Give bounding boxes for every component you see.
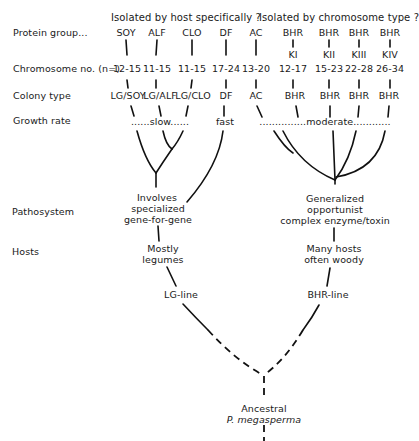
protein-group-bhr-1: BHR (283, 27, 304, 38)
lg-line-label: LG-line (164, 289, 198, 300)
protein-group-bhr-3: BHR (349, 27, 370, 38)
branch-alf (163, 131, 172, 149)
colony-bhr-4: BHR (379, 90, 400, 101)
branch-bhr-k4 (336, 131, 385, 177)
lg-pathosystem-line-1: Involves (137, 192, 177, 203)
colony-lg-alf: LG/ALF (143, 90, 177, 101)
row-label-protein-group: Protein group... (13, 27, 88, 38)
protein-group-clo: CLO (182, 27, 201, 38)
chromosome-bhr-k2: 15-23 (315, 63, 343, 74)
lg-hosts-to-line (167, 267, 176, 286)
colony-df: DF (220, 90, 233, 101)
bhr-line-branch (303, 305, 319, 330)
karyotype-k2: KII (323, 49, 335, 60)
colony-ac: AC (249, 90, 262, 101)
bhr-pathosystem-line-2: opportunist (307, 204, 363, 215)
colony-bhr-2: BHR (320, 90, 341, 101)
bhr-line-label: BHR-line (307, 289, 348, 300)
protein-group-bhr-4: BHR (380, 27, 401, 38)
colony-bhr-3: BHR (349, 90, 370, 101)
bhr-hosts-line-2: often woody (304, 254, 364, 265)
lg-pathosystem-line-3: gene-for-gene (124, 214, 192, 225)
header-chromosome-type: Isolated by chromosome type ? (259, 12, 419, 23)
chromosome-ac: 13-20 (242, 63, 270, 74)
colony-lg-clo: LG/CLO (175, 90, 211, 101)
bhr-pathosystem-line-1: Generalized (306, 193, 364, 204)
chromosome-df: 17-24 (212, 63, 240, 74)
growth-rate-fast: fast (216, 116, 234, 127)
row-label-colony-type: Colony type (13, 90, 71, 101)
row-label-growth-rate: Growth rate (13, 115, 71, 126)
karyotype-k3: KIII (351, 49, 366, 60)
row-label-chromosome-no: Chromosome no. (n=) (13, 63, 120, 74)
chromosome-bhr-k1: 12-17 (279, 63, 307, 74)
row-label-hosts: Hosts (12, 246, 39, 257)
branch-soy (137, 131, 156, 173)
bhr-pathosystem-line-3: complex enzyme/toxin (280, 215, 390, 226)
root-species: P. megasperma (225, 414, 304, 425)
branch-bhr-k1 (283, 131, 335, 180)
branch-bhr-k2 (333, 131, 335, 180)
lg-pathosystem-line-2: specialized (131, 203, 185, 214)
bhr-ancestral-dashed (264, 330, 303, 375)
root-label: Ancestral (239, 403, 289, 414)
protein-group-bhr-2: BHR (319, 27, 340, 38)
branch-alf-clo (156, 149, 172, 173)
protein-group-ac: AC (249, 27, 262, 38)
lg-line-branch (183, 304, 208, 330)
colony-bhr-1: BHR (285, 90, 306, 101)
lg-path-to-hosts (158, 226, 159, 241)
protein-group-alf: ALF (148, 27, 166, 38)
colony-lg-soy: LG/SOY (110, 90, 145, 101)
branch-clo (172, 131, 183, 149)
chromosome-soy: 12-15 (113, 63, 141, 74)
connector-alf (156, 40, 157, 55)
chromosome-bhr-k4: 26-34 (376, 63, 404, 74)
branch-df (187, 131, 223, 202)
lg-hosts-line-2: legumes (142, 254, 183, 265)
chromosome-bhr-k3: 22-28 (345, 63, 373, 74)
growth-rate-slow: ......slow...... (131, 116, 189, 127)
lg-ancestral-dashed (208, 330, 263, 375)
row-label-pathosystem: Pathosystem (12, 206, 74, 217)
bhr-hosts-to-line (327, 268, 330, 286)
protein-group-df: DF (220, 27, 233, 38)
bhr-hosts-line-1: Many hosts (306, 243, 361, 254)
header-host-specific: Isolated by host specifically ? (111, 12, 261, 23)
protein-group-soy: SOY (116, 27, 135, 38)
chromosome-alf: 11-15 (143, 63, 171, 74)
growth-rate-moderate: ...............moderate............ (259, 116, 390, 127)
karyotype-k1: KI (288, 49, 297, 60)
lg-hosts-line-1: Mostly (147, 243, 179, 254)
chromosome-clo: 11-15 (178, 63, 206, 74)
karyotype-k4: KIV (382, 49, 398, 60)
connector-soy (126, 40, 127, 55)
